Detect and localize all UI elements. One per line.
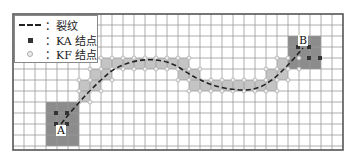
- kf-node: [275, 67, 279, 71]
- legend-item-crack: ：裂纹: [15, 18, 78, 32]
- kf-node: [99, 67, 103, 71]
- kf-node: [132, 67, 136, 71]
- kf-node: [77, 78, 81, 82]
- kf-node: [187, 56, 191, 60]
- kf-node: [275, 78, 279, 82]
- kf-node: [264, 89, 268, 93]
- ka-node: [54, 111, 58, 115]
- kf-node: [154, 67, 158, 71]
- kf-node: [143, 67, 147, 71]
- ka-node: [318, 56, 322, 60]
- kf-node: [110, 56, 114, 60]
- kf-node: [264, 78, 268, 82]
- kf-node: [165, 56, 169, 60]
- kf-node: [187, 67, 191, 71]
- kf-node: [176, 78, 180, 82]
- kf-node: [220, 89, 224, 93]
- kf-node: [286, 56, 290, 60]
- kf-node: [88, 100, 92, 104]
- kf-node: [88, 67, 92, 71]
- crack-mesh-figure: ：裂纹 ：KA 结点 ：KF 结点 A B: [0, 0, 351, 159]
- ka-node: [65, 111, 69, 115]
- hollow-circle-icon: [27, 51, 33, 57]
- kf-node: [264, 67, 268, 71]
- kf-node: [99, 56, 103, 60]
- legend-item-kf-node: ：KF 结点: [15, 47, 97, 61]
- kf-node: [88, 78, 92, 82]
- kf-node: [132, 56, 136, 60]
- kf-node: [297, 67, 301, 71]
- kf-node: [286, 78, 290, 82]
- kf-node: [198, 67, 202, 71]
- point-label-b: B: [298, 35, 308, 46]
- kf-node: [286, 67, 290, 71]
- point-label-a: A: [56, 125, 66, 136]
- legend-item-ka-node: ：KA 结点: [15, 33, 97, 47]
- kf-node: [220, 78, 224, 82]
- filled-square-icon: [28, 38, 33, 43]
- kf-node: [99, 89, 103, 93]
- kf-node: [110, 78, 114, 82]
- kf-node: [209, 89, 213, 93]
- kf-node: [121, 56, 125, 60]
- kf-node: [242, 78, 246, 82]
- ka-node: [307, 56, 311, 60]
- kf-node: [253, 89, 257, 93]
- kf-node: [176, 56, 180, 60]
- kf-node: [209, 78, 213, 82]
- kf-node: [275, 89, 279, 93]
- kf-node: [187, 78, 191, 82]
- kf-node: [187, 89, 191, 93]
- kf-node: [198, 89, 202, 93]
- kf-node: [297, 56, 301, 60]
- legend: ：裂纹 ：KA 结点 ：KF 结点: [14, 15, 98, 63]
- kf-node: [121, 67, 125, 71]
- kf-node: [253, 78, 257, 82]
- kf-node: [165, 67, 169, 71]
- kf-node: [77, 89, 81, 93]
- kf-node: [231, 78, 235, 82]
- dashed-line-icon: [19, 24, 41, 26]
- kf-node: [275, 56, 279, 60]
